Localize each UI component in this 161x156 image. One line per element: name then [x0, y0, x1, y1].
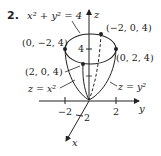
point-top [99, 32, 103, 36]
equation-leader [72, 21, 80, 33]
point-label-right: (0, 2, 4) [116, 52, 154, 63]
equation-label: x² + y² = 4 [27, 10, 82, 21]
z-axis-label: z [93, 9, 100, 20]
curve-label-yz: z = y² [117, 81, 146, 92]
point-label-left: (0, −2, 4) [22, 37, 68, 48]
point-label-front: (2, 0, 4) [25, 66, 63, 77]
problem-number: 2. [7, 9, 19, 22]
curve-label-xz: z = x² [27, 83, 56, 94]
paraboloid-diagram: 2. x² + y² = 4 z 4 y −2 2 x 2 (−2, 0, 4)… [0, 0, 161, 156]
z-tick-label: 4 [78, 43, 84, 54]
paraboloid-surface [65, 34, 116, 100]
yz-leader [110, 82, 117, 86]
y-tick-label-pos: 2 [113, 106, 119, 117]
x-tick-label: 2 [84, 112, 90, 123]
y-tick-label-neg: −2 [58, 106, 72, 117]
xz-leader [60, 80, 75, 88]
point-label-top: (−2, 0, 4) [106, 22, 152, 33]
x-axis-label: x [72, 137, 78, 148]
y-axis-label: y [138, 103, 145, 114]
point-front [81, 62, 85, 66]
x-tick [76, 115, 83, 116]
point-right [114, 47, 118, 51]
